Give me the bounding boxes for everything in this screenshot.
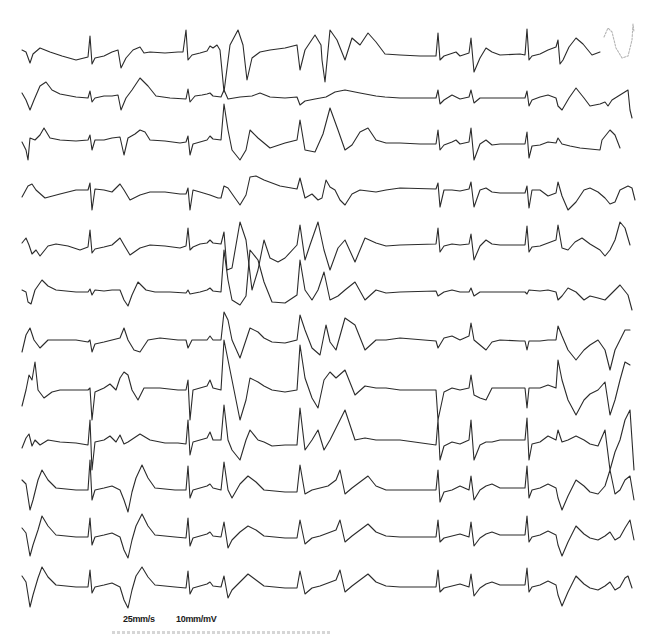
ecg-lead-trace-7 [22, 312, 630, 370]
ecg-lead-trace-4 [22, 176, 635, 210]
ecg-lead-trace-3 [22, 104, 620, 160]
ecg-lead-trace-1 [22, 29, 600, 92]
footer-text-strip [112, 631, 332, 634]
ecg-lead-trace-9 [22, 405, 634, 470]
ecg-lead-trace-12 [22, 567, 632, 608]
ecg-leads [22, 29, 635, 608]
ecg-lead-trace-10 [22, 460, 634, 512]
faded-trace-segment [604, 24, 634, 58]
ecg-artifacts [604, 24, 634, 58]
gain-label: 10mm/mV [176, 614, 216, 624]
paper-speed-label: 25mm/s [123, 614, 155, 624]
ecg-lead-trace-11 [22, 514, 634, 558]
ecg-lead-trace-2 [22, 78, 632, 118]
ecg-lead-trace-8 [22, 340, 630, 420]
ecg-tracing [0, 0, 659, 642]
